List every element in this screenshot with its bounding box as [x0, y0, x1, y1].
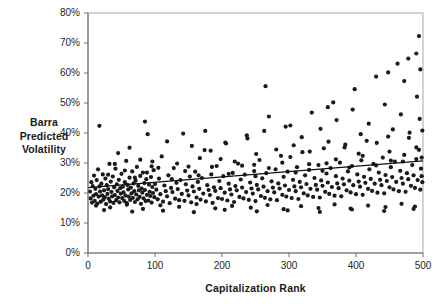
scatter-point — [215, 164, 219, 168]
scatter-point — [346, 169, 350, 173]
scatter-point — [123, 168, 127, 172]
scatter-point — [190, 184, 194, 188]
scatter-point — [387, 150, 391, 154]
scatter-point — [149, 175, 153, 179]
scatter-point — [265, 203, 269, 207]
scatter-point — [165, 139, 169, 143]
scatter-point — [103, 195, 107, 199]
scatter-point — [295, 165, 299, 169]
scatter-point — [240, 186, 244, 190]
scatter-point — [209, 149, 213, 153]
scatter-point — [168, 201, 172, 205]
scatter-point — [198, 198, 202, 202]
scatter-point — [308, 187, 312, 191]
scatter-point — [330, 185, 334, 189]
scatter-point — [119, 172, 123, 176]
scatter-point — [208, 193, 212, 197]
scatter-point — [276, 181, 280, 185]
scatter-point — [391, 127, 395, 131]
scatter-point — [143, 188, 147, 192]
scatter-point — [345, 188, 349, 192]
scatter-point — [233, 159, 237, 163]
scatter-point — [99, 182, 103, 186]
scatter-point — [417, 148, 421, 152]
scatter-point — [373, 182, 377, 186]
scatter-point — [389, 159, 393, 163]
scatter-point — [255, 209, 259, 213]
y-tick-label: 20% — [46, 188, 80, 198]
scatter-point — [183, 169, 187, 173]
scatter-point — [157, 177, 161, 181]
scatter-point — [320, 184, 324, 188]
scatter-point — [102, 188, 106, 192]
scatter-point — [150, 201, 154, 205]
scatter-point — [336, 186, 340, 190]
scatter-point — [106, 187, 110, 191]
scatter-point — [213, 189, 217, 193]
scatter-point — [286, 208, 290, 212]
scatter-point — [420, 156, 424, 160]
scatter-point — [235, 188, 239, 192]
scatter-point — [256, 187, 260, 191]
scatter-point — [291, 178, 295, 182]
scatter-point — [310, 111, 314, 115]
scatter-point — [161, 200, 165, 204]
scatter-point — [193, 170, 197, 174]
scatter-point — [300, 150, 304, 154]
scatter-point — [227, 172, 231, 176]
scatter-point — [385, 179, 389, 183]
scatter-point — [415, 95, 419, 99]
scatter-point — [323, 190, 327, 194]
scatter-point — [116, 195, 120, 199]
scatter-point — [166, 173, 170, 177]
scatter-point — [189, 200, 193, 204]
scatter-point — [253, 199, 257, 203]
scatter-point — [271, 186, 275, 190]
scatter-point — [203, 129, 207, 133]
scatter-point — [322, 146, 326, 150]
scatter-point — [298, 180, 302, 184]
scatter-point — [366, 187, 370, 191]
scatter-point — [332, 202, 336, 206]
scatter-point — [334, 157, 338, 161]
scatter-point — [361, 154, 365, 158]
scatter-point — [383, 102, 387, 106]
x-tick-label: 300 — [269, 261, 309, 271]
scatter-point — [144, 177, 148, 181]
scatter-point — [237, 195, 241, 199]
scatter-point — [107, 162, 111, 166]
scatter-point — [192, 210, 196, 214]
scatter-point — [125, 203, 129, 207]
scatter-point — [181, 132, 185, 136]
scatter-point — [225, 198, 229, 202]
scatter-point — [401, 182, 405, 186]
x-tick-label: 100 — [135, 261, 175, 271]
scatter-point — [229, 192, 233, 196]
scatter-point — [269, 179, 273, 183]
scatter-point — [324, 171, 328, 175]
scatter-point — [375, 141, 379, 145]
scatter-point — [252, 163, 256, 167]
scatter-point — [198, 156, 202, 160]
scatter-point — [89, 180, 93, 184]
scatter-point — [363, 181, 367, 185]
scatter-point — [111, 174, 115, 178]
scatter-point — [129, 186, 133, 190]
scatter-point — [143, 120, 147, 124]
scatter-point — [383, 173, 387, 177]
scatter-point — [186, 165, 190, 169]
scatter-point — [95, 178, 99, 182]
scatter-point — [324, 161, 328, 165]
scatter-point — [361, 193, 365, 197]
scatter-point — [113, 167, 117, 171]
scatter-point — [156, 166, 160, 170]
scatter-point — [399, 202, 403, 206]
scatter-point — [130, 210, 134, 214]
scatter-point — [409, 184, 413, 188]
scatter-point — [412, 173, 416, 177]
scatter-point — [308, 150, 312, 154]
scatter-point — [151, 191, 155, 195]
scatter-point — [359, 132, 363, 136]
scatter-point — [357, 152, 361, 156]
scatter-point — [176, 187, 180, 191]
